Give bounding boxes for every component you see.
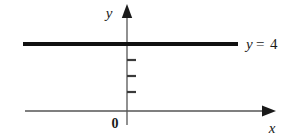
x-axis-label: x [268,120,276,136]
line-equation-value: 4 [270,36,278,52]
origin-label: 0 [112,116,119,131]
line-equation-label: y = 4 [244,36,278,52]
line-equation-operator: = [256,36,264,52]
y-axis-arrow-icon [122,4,132,18]
y-axis-label: y [104,5,113,21]
x-axis-arrow-icon [262,106,276,117]
y-axis-tick-group [127,60,136,92]
graph-figure: y x 0 y = 4 [0,0,294,137]
graph-canvas: y x 0 y = 4 [0,0,294,137]
line-equation-variable: y [244,36,253,52]
